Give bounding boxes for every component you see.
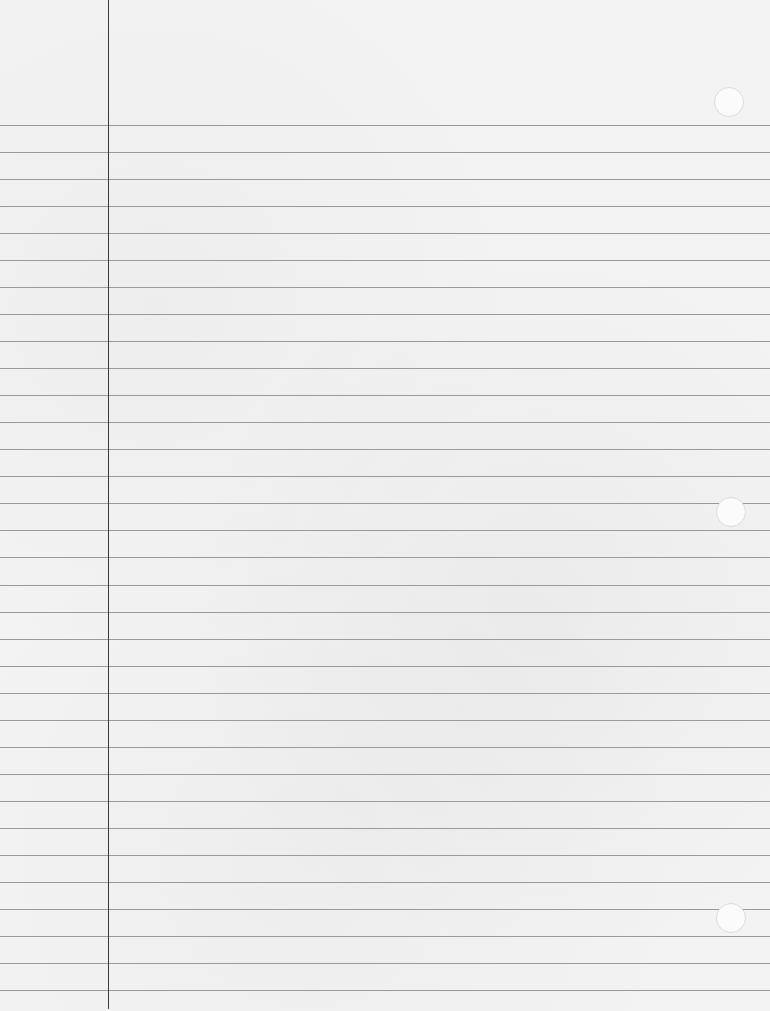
ruled-line (0, 936, 770, 937)
ruled-line (0, 693, 770, 694)
ruled-line (0, 206, 770, 207)
ruled-line (0, 882, 770, 883)
punch-hole-icon (714, 87, 744, 117)
ruled-line (0, 909, 770, 910)
ruled-line (0, 152, 770, 153)
ruled-line (0, 422, 770, 423)
ruled-line (0, 612, 770, 613)
ruled-line (0, 341, 770, 342)
margin-line (108, 0, 109, 1009)
ruled-line (0, 828, 770, 829)
ruled-line (0, 530, 770, 531)
ruled-line (0, 855, 770, 856)
ruled-line (0, 287, 770, 288)
ruled-line (0, 639, 770, 640)
ruled-line (0, 449, 770, 450)
ruled-line (0, 774, 770, 775)
ruled-line (0, 125, 770, 126)
ruled-line (0, 963, 770, 964)
punch-hole-icon (716, 903, 746, 933)
ruled-line (0, 260, 770, 261)
ruled-line (0, 747, 770, 748)
ruled-line (0, 476, 770, 477)
notebook-paper: Lined notebook paper (0, 0, 770, 1011)
ruled-line (0, 585, 770, 586)
ruled-line (0, 503, 770, 504)
ruled-line (0, 395, 770, 396)
ruled-line (0, 720, 770, 721)
ruled-line (0, 990, 770, 991)
punch-hole-icon (716, 497, 746, 527)
ruled-line (0, 314, 770, 315)
ruled-line (0, 368, 770, 369)
ruled-line (0, 666, 770, 667)
ruled-line (0, 233, 770, 234)
ruled-line (0, 801, 770, 802)
ruled-line (0, 557, 770, 558)
ruled-line (0, 179, 770, 180)
